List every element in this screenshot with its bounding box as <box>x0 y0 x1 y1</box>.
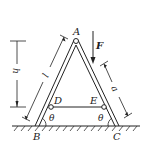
label-E: E <box>89 95 98 106</box>
ladder-diagram: A B C D E F h l a θ θ <box>0 0 148 157</box>
left-leg-AB <box>35 40 76 126</box>
force-arrow-icon <box>91 31 96 64</box>
label-F: F <box>95 40 104 51</box>
dimension-h <box>10 41 26 107</box>
label-C: C <box>113 131 121 142</box>
label-a: a <box>109 84 120 93</box>
label-theta-right: θ <box>98 113 104 123</box>
hinge-A <box>74 39 79 44</box>
label-l: l <box>41 72 51 79</box>
label-B: B <box>32 131 40 142</box>
pin-D <box>49 105 54 110</box>
label-A: A <box>72 26 80 37</box>
ground <box>12 126 140 131</box>
label-theta-left: θ <box>49 113 55 123</box>
pin-E <box>102 105 107 110</box>
label-h: h <box>11 68 21 74</box>
label-D: D <box>53 95 62 106</box>
